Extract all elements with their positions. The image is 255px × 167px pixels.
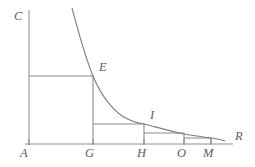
rectangle-OM xyxy=(184,138,211,144)
rectangle-GH xyxy=(93,124,144,144)
rectangle-AG xyxy=(29,76,93,144)
point-label-O: O xyxy=(177,147,186,160)
point-label-E: E xyxy=(99,61,107,74)
axis-label-R: R xyxy=(235,130,243,143)
figure-container: C R A G H O M E I xyxy=(0,0,255,167)
point-label-H: H xyxy=(137,147,146,160)
rectangle-HO xyxy=(144,133,184,144)
point-label-A: A xyxy=(20,147,28,160)
point-label-M: M xyxy=(203,147,213,160)
hyperbola-curve xyxy=(72,8,225,141)
axis-label-C: C xyxy=(14,10,22,23)
point-label-G: G xyxy=(85,147,94,160)
figure-canvas xyxy=(0,0,255,167)
point-label-I: I xyxy=(150,109,154,122)
